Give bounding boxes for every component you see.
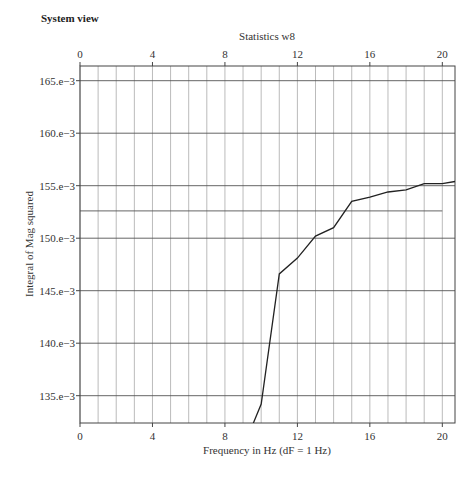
x-tick-label-top: 16 [364,48,376,60]
data-series [243,182,455,449]
x-tick-label-bottom: 8 [222,430,228,442]
x-tick-label-bottom: 4 [150,430,156,442]
y-tick-label: 165.e−3 [39,75,75,87]
series-line [243,182,455,449]
y-tick-label: 135.e−3 [39,390,75,402]
y-tick-label: 160.e−3 [39,127,75,139]
x-tick-label-top: 0 [77,48,83,60]
x-tick-label-bottom: 0 [77,430,83,442]
y-tick-label: 145.e−3 [39,285,75,297]
plot-frame [80,66,455,423]
y-tick-label: 140.e−3 [39,337,75,349]
x-tick-label-top: 20 [437,48,449,60]
plot-frame-rect [80,66,455,423]
grid [80,66,455,423]
chart-title: Statistics w8 [239,30,295,42]
x-tick-label-bottom: 20 [437,430,449,442]
x-tick-label-top: 8 [222,48,228,60]
axis-ticks: 004488121216162020135.e−3140.e−3145.e−31… [39,48,448,442]
line-chart: 004488121216162020135.e−3140.e−3145.e−31… [0,0,475,480]
y-tick-label: 155.e−3 [39,180,75,192]
y-tick-label: 150.e−3 [39,232,75,244]
x-tick-label-bottom: 12 [292,430,303,442]
x-tick-label-top: 12 [292,48,303,60]
x-tick-label-top: 4 [150,48,156,60]
x-tick-label-bottom: 16 [364,430,376,442]
y-axis-title: Integral of Mag squared [23,191,35,297]
x-axis-title: Frequency in Hz (dF = 1 Hz) [203,444,331,457]
